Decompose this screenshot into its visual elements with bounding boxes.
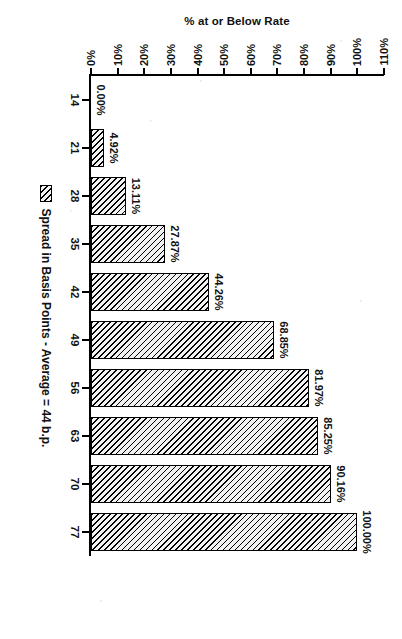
- y-axis-tick-label: 90%: [325, 44, 337, 66]
- y-axis-tick-mark: [276, 68, 278, 75]
- scan-speckle: [361, 300, 363, 302]
- bar-value-label: 100.00%: [361, 508, 373, 556]
- legend-swatch-icon: [40, 185, 52, 202]
- bar: [91, 177, 126, 215]
- x-axis-tick-mark: [82, 339, 89, 341]
- y-axis-tick-labels: 0%10%20%30%40%50%60%70%80%90%100%110%: [89, 30, 384, 70]
- x-axis-tick-label: 42: [69, 268, 81, 316]
- y-axis-tick-mark: [303, 68, 305, 75]
- x-axis-tick-mark: [82, 195, 89, 197]
- bar: [91, 513, 357, 551]
- bar: [91, 273, 209, 311]
- bar: [91, 129, 104, 167]
- y-axis-tick-label: 110%: [378, 38, 390, 66]
- y-axis-tick-mark: [356, 68, 358, 75]
- y-axis-tick-mark: [383, 68, 385, 75]
- y-axis-tick-label: 70%: [271, 44, 283, 66]
- chart-screenshot: % at or Below Rate 0%10%20%30%40%50%60%7…: [0, 0, 402, 639]
- y-axis-tick-label: 100%: [351, 38, 363, 66]
- y-axis-tick-mark: [143, 68, 145, 75]
- bar-value-label: 4.92%: [108, 124, 120, 172]
- y-axis-tick-label: 20%: [138, 44, 150, 66]
- scan-speckle: [311, 520, 313, 522]
- x-axis-tick-mark: [82, 291, 89, 293]
- x-axis-tick-labels: 14212835424956637077: [65, 76, 81, 556]
- bar: [91, 417, 318, 455]
- bar: [91, 225, 165, 263]
- y-axis-tick-mark: [223, 68, 225, 75]
- x-axis-tick-label: 63: [69, 412, 81, 460]
- bar-value-label: 44.26%: [213, 268, 225, 316]
- x-axis-tick-label: 35: [69, 220, 81, 268]
- scan-speckle: [70, 210, 72, 212]
- bar-value-label: 81.97%: [313, 364, 325, 412]
- y-axis-tick-label: 10%: [112, 44, 124, 66]
- scan-speckle: [201, 80, 203, 82]
- bar: [91, 369, 309, 407]
- x-axis-tick-mark: [82, 483, 89, 485]
- y-axis-tick-label: 0%: [85, 50, 97, 66]
- x-axis-tick-label: 21: [69, 124, 81, 172]
- legend: Spread in Basis Points - Average = 44 b.…: [35, 76, 57, 556]
- y-axis-tick-mark: [250, 68, 252, 75]
- rotated-chart-container: % at or Below Rate 0%10%20%30%40%50%60%7…: [0, 0, 402, 639]
- bar-value-label: 90.16%: [335, 460, 347, 508]
- y-axis-tick-mark: [170, 68, 172, 75]
- plot-area: 0.00%4.92%13.11%27.87%44.26%68.85%81.97%…: [91, 76, 384, 556]
- bar-value-label: 85.25%: [322, 412, 334, 460]
- scan-speckle: [150, 120, 152, 122]
- y-axis-tick-mark: [117, 68, 119, 75]
- x-axis-tick-label: 77: [69, 508, 81, 556]
- y-axis-tick-mark: [330, 68, 332, 75]
- x-axis-tick-mark: [82, 387, 89, 389]
- y-axis-tick-label: 60%: [245, 44, 257, 66]
- bar: [91, 465, 331, 503]
- y-axis-tick-label: 50%: [218, 44, 230, 66]
- bar-value-label: 13.11%: [130, 172, 142, 220]
- x-axis-tick-mark: [82, 243, 89, 245]
- legend-label: Spread in Basis Points - Average = 44 b.…: [39, 209, 53, 448]
- x-axis-tick-mark: [82, 147, 89, 149]
- bar-value-label: 68.85%: [278, 316, 290, 364]
- y-axis-title-text: % at or Below Rate: [184, 15, 289, 27]
- x-axis-tick-label: 49: [69, 316, 81, 364]
- y-axis-tick-mark: [197, 68, 199, 75]
- bar-chart: % at or Below Rate 0%10%20%30%40%50%60%7…: [0, 0, 402, 639]
- bar: [91, 321, 274, 359]
- x-axis-tick-mark: [82, 531, 89, 533]
- bar-value-label: 27.87%: [169, 220, 181, 268]
- y-axis-tick-label: 30%: [165, 44, 177, 66]
- x-axis-tick-label: 70: [69, 460, 81, 508]
- x-axis-tick-mark: [82, 99, 89, 101]
- x-axis-tick-label: 14: [69, 76, 81, 124]
- x-axis-tick-mark: [82, 435, 89, 437]
- x-axis-tick-label: 56: [69, 364, 81, 412]
- scan-speckle: [101, 600, 103, 602]
- bar-value-label: 0.00%: [95, 76, 107, 124]
- x-axis-tick-label: 28: [69, 172, 81, 220]
- y-axis-tick-label: 40%: [192, 44, 204, 66]
- y-axis-tick-label: 80%: [298, 44, 310, 66]
- y-axis-tick-mark: [90, 68, 92, 75]
- scan-speckle: [340, 40, 342, 42]
